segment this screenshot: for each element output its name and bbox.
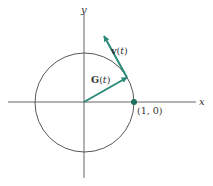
v-vector-label: v(t) (110, 45, 128, 56)
g-bold: G (91, 74, 99, 85)
g-vector-label: G(t) (91, 74, 110, 85)
unit-circle-diagram: y x G(t) v(t) (1, 0) (0, 0, 213, 186)
x-axis-label: x (199, 96, 205, 107)
v-vector-arrow (104, 36, 127, 78)
v-close: ) (124, 45, 128, 56)
y-axis-label: y (80, 4, 87, 15)
point-label: (1, 0) (137, 105, 163, 116)
g-close: ) (107, 74, 111, 85)
